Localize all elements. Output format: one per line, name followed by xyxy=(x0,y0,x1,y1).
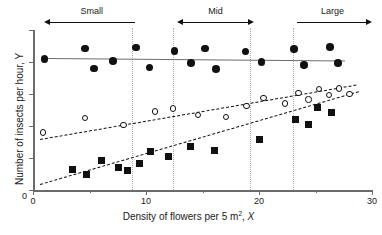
data-point-filled-circles-15 xyxy=(334,59,342,67)
data-point-filled-circles-13 xyxy=(300,61,308,69)
data-point-filled-squares-5 xyxy=(136,160,143,167)
data-point-open-circles-4 xyxy=(170,105,177,112)
x-tick-label-30: 30 xyxy=(352,196,382,206)
x-tick-label-20: 20 xyxy=(239,196,279,206)
data-point-filled-squares-13 xyxy=(314,104,321,111)
y-tick-80 xyxy=(29,62,34,63)
data-point-filled-circles-11 xyxy=(258,58,266,66)
region-divider-0 xyxy=(132,28,133,190)
data-point-filled-circles-12 xyxy=(290,45,298,53)
data-point-filled-squares-1 xyxy=(83,171,90,178)
y-axis-line xyxy=(33,30,35,190)
data-point-open-circles-2 xyxy=(120,122,127,129)
data-point-open-circles-1 xyxy=(82,115,89,122)
x-tick-30 xyxy=(372,190,373,195)
x-minor-tick-15 xyxy=(203,190,204,193)
data-point-open-circles-15 xyxy=(346,91,353,98)
data-point-open-circles-7 xyxy=(243,103,250,110)
data-point-filled-squares-0 xyxy=(69,166,76,173)
data-point-filled-squares-14 xyxy=(328,109,335,116)
data-point-filled-squares-10 xyxy=(256,136,263,143)
y-tick-0 xyxy=(29,190,34,191)
data-point-open-circles-9 xyxy=(282,100,289,107)
data-point-filled-circles-0 xyxy=(41,55,49,63)
x-axis-label: Density of flowers per 5 m2, X xyxy=(0,210,377,222)
data-point-filled-squares-2 xyxy=(98,157,105,164)
data-point-open-circles-13 xyxy=(326,92,333,99)
x-minor-tick-25 xyxy=(316,190,317,193)
region-divider-2 xyxy=(250,28,251,190)
trendline-filled-circles xyxy=(47,58,345,61)
y-tick-60 xyxy=(29,94,34,95)
data-point-filled-circles-4 xyxy=(132,44,140,52)
x-tick-20 xyxy=(259,190,260,195)
region-arrow-head-right-large xyxy=(366,19,372,25)
y-tick-20 xyxy=(29,158,34,159)
data-point-open-circles-3 xyxy=(152,108,159,115)
data-point-filled-circles-9 xyxy=(212,65,220,73)
data-point-filled-circles-6 xyxy=(171,47,179,55)
y-tick-label-0: 0 xyxy=(9,191,27,201)
region-arrow-line-large xyxy=(297,22,367,23)
data-point-filled-squares-7 xyxy=(165,153,172,160)
x-axis-variable: X xyxy=(248,211,255,222)
data-point-filled-squares-11 xyxy=(292,116,299,123)
region-arrow-line-small xyxy=(49,22,135,23)
y-axis-label: Number of insects per hour, Y xyxy=(14,53,25,185)
x-minor-tick-5 xyxy=(90,190,91,193)
x-tick-10 xyxy=(146,190,147,195)
data-point-filled-circles-8 xyxy=(201,45,209,53)
region-arrow-head-left-mid xyxy=(177,19,183,25)
region-label-large: Large xyxy=(292,6,372,16)
y-tick-100 xyxy=(29,30,34,31)
data-point-filled-squares-8 xyxy=(187,143,194,150)
data-point-filled-circles-14 xyxy=(326,43,334,51)
region-arrow-head-right-mid xyxy=(248,19,254,25)
data-point-filled-squares-9 xyxy=(211,147,218,154)
region-arrow-head-left-small xyxy=(44,19,50,25)
y-tick-40 xyxy=(29,126,34,127)
data-point-filled-squares-3 xyxy=(115,164,122,171)
data-point-open-circles-10 xyxy=(295,90,302,97)
data-point-filled-squares-12 xyxy=(305,121,312,128)
data-point-open-circles-0 xyxy=(40,129,47,136)
region-label-small: Small xyxy=(52,6,132,16)
data-point-open-circles-8 xyxy=(260,95,267,102)
data-point-filled-squares-6 xyxy=(147,148,154,155)
data-point-filled-circles-10 xyxy=(242,48,250,56)
data-point-filled-circles-7 xyxy=(187,59,195,67)
data-point-filled-circles-2 xyxy=(90,65,98,73)
data-point-filled-circles-5 xyxy=(146,64,154,72)
region-label-mid: Mid xyxy=(175,6,255,16)
data-point-open-circles-5 xyxy=(195,112,202,119)
data-point-filled-circles-3 xyxy=(109,57,117,65)
region-arrow-line-mid xyxy=(182,22,249,23)
data-point-open-circles-6 xyxy=(223,114,230,121)
data-point-filled-circles-1 xyxy=(81,45,89,53)
data-point-filled-squares-4 xyxy=(124,167,131,174)
x-tick-label-10: 10 xyxy=(126,196,166,206)
data-point-open-circles-11 xyxy=(305,96,312,103)
data-point-open-circles-14 xyxy=(336,85,343,92)
x-axis-label-text: Density of flowers per 5 m xyxy=(123,211,239,222)
